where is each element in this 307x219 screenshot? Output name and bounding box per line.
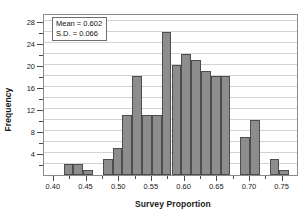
y-axis-tick	[37, 66, 43, 67]
x-axis-tick	[86, 176, 87, 181]
histogram-bar	[64, 164, 74, 175]
sd-label: S.D. = 0.066	[56, 29, 102, 39]
histogram-chart: Frequency 481216202428 0.400.450.500.550…	[0, 0, 307, 219]
y-axis-tick-label: 20	[13, 62, 35, 71]
histogram-bar	[152, 115, 162, 175]
x-axis-tick	[282, 176, 283, 181]
x-axis-tick-label: 0.40	[36, 182, 70, 191]
y-axis-minor-tick	[39, 143, 43, 144]
x-axis-tick-label: 0.50	[101, 182, 135, 191]
x-axis-title: Survey Proportion	[48, 199, 298, 209]
y-axis-tick	[37, 88, 43, 89]
histogram-bar	[132, 76, 142, 175]
histogram-bar	[142, 115, 152, 175]
x-axis-tick-label: 0.45	[69, 182, 103, 191]
x-axis-minor-tick	[167, 176, 168, 179]
y-axis-tick	[37, 44, 43, 45]
y-axis-tick	[37, 132, 43, 133]
stats-annotation-box: Mean = 0.602 S.D. = 0.066	[52, 17, 107, 41]
x-axis-tick-label: 0.70	[232, 182, 266, 191]
x-axis-minor-tick	[233, 176, 234, 179]
histogram-bar	[103, 159, 113, 175]
histogram-bar	[73, 164, 83, 175]
histogram-bar	[201, 71, 211, 175]
x-axis-tick	[249, 176, 250, 181]
y-axis-tick	[37, 110, 43, 111]
x-axis-minor-tick	[102, 176, 103, 179]
y-axis-minor-tick	[39, 121, 43, 122]
histogram-bar	[279, 170, 289, 175]
x-axis-tick	[118, 176, 119, 181]
histogram-bar	[221, 76, 231, 175]
x-axis-tick	[184, 176, 185, 181]
x-axis-minor-tick	[200, 176, 201, 179]
histogram-bar	[240, 137, 250, 175]
histogram-bar	[113, 148, 123, 175]
y-axis-minor-tick	[39, 55, 43, 56]
histogram-bar	[211, 76, 221, 175]
x-axis-tick-label: 0.65	[199, 182, 233, 191]
y-axis-tick-label: 28	[13, 18, 35, 27]
histogram-bar	[162, 32, 172, 175]
y-axis-tick-label: 12	[13, 106, 35, 115]
histogram-bar	[172, 65, 182, 175]
mean-label: Mean = 0.602	[56, 19, 102, 29]
x-axis-tick-label: 0.55	[134, 182, 168, 191]
histogram-bar	[122, 115, 132, 175]
x-axis-tick	[151, 176, 152, 181]
x-axis-minor-tick	[69, 176, 70, 179]
y-axis-tick	[37, 22, 43, 23]
y-axis-minor-tick	[39, 33, 43, 34]
y-axis-tick-label: 8	[13, 128, 35, 137]
y-axis-tick-label: 24	[13, 40, 35, 49]
y-axis-minor-tick	[39, 77, 43, 78]
y-axis-tick-label: 16	[13, 84, 35, 93]
histogram-bar	[270, 159, 280, 175]
y-axis-tick	[37, 154, 43, 155]
x-axis-tick	[216, 176, 217, 181]
y-axis-tick-label: 4	[13, 150, 35, 159]
histogram-bar	[191, 60, 201, 175]
x-axis-tick-label: 0.75	[265, 182, 299, 191]
x-axis-tick-label: 0.60	[167, 182, 201, 191]
histogram-bar	[181, 54, 191, 175]
x-axis-minor-tick	[265, 176, 266, 179]
x-axis-minor-tick	[135, 176, 136, 179]
y-axis-minor-tick	[39, 99, 43, 100]
y-axis-minor-tick	[39, 165, 43, 166]
histogram-bar	[83, 170, 93, 175]
x-axis-tick	[53, 176, 54, 181]
histogram-bar	[250, 120, 260, 175]
